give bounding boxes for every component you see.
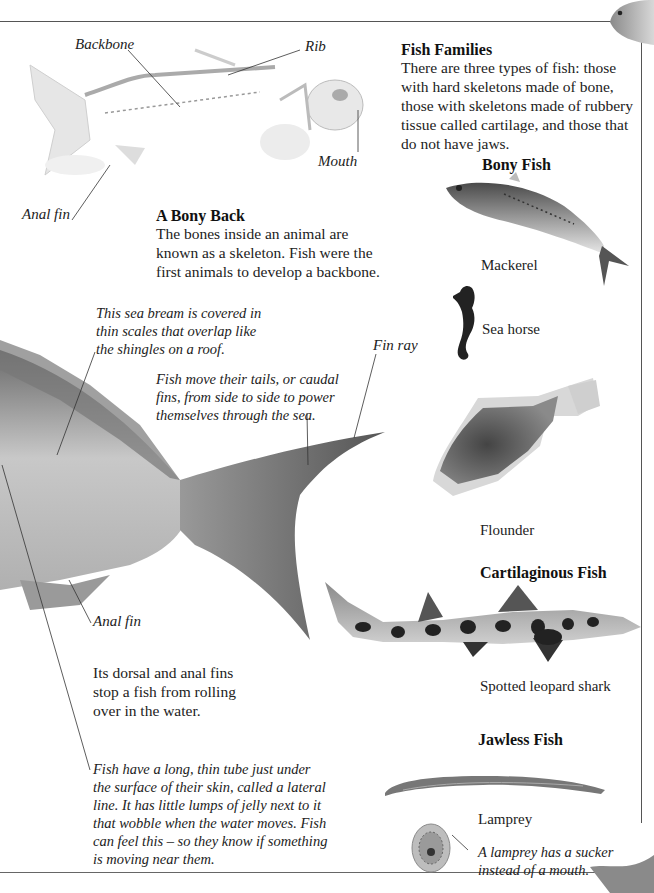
sea-horse-label: Sea horse: [482, 320, 540, 338]
bony-fish-heading: Bony Fish: [482, 155, 551, 174]
scales-caption: This sea bream is covered in thin scales…: [96, 304, 276, 358]
lamprey-label: Lamprey: [478, 810, 532, 828]
lateral-line-caption: Fish have a long, thin tube just under t…: [93, 760, 328, 868]
backbone-label: Backbone: [75, 36, 134, 53]
cartilaginous-fish-heading: Cartilaginous Fish: [480, 563, 607, 582]
fish-head-corner-image: [605, 0, 654, 50]
lamprey-sucker-image: [410, 822, 452, 877]
bony-back-body: The bones inside an animal are known as …: [156, 224, 386, 281]
bony-back-heading: A Bony Back: [156, 206, 245, 225]
mackerel-image: [444, 176, 634, 291]
tail-caption: Fish move their tails, or caudal fins, f…: [156, 370, 346, 424]
fish-families-body: There are three types of fish: those wit…: [401, 58, 633, 153]
fish-tail-corner-image: [590, 855, 654, 893]
dorsal-fins-text: Its dorsal and anal fins stop a fish fro…: [93, 663, 253, 720]
rib-label: Rib: [305, 38, 326, 55]
skeleton-anal-fin-label: Anal fin: [22, 206, 70, 223]
jawless-fish-heading: Jawless Fish: [478, 730, 563, 749]
lamprey-image: [383, 768, 608, 800]
top-rule: [0, 21, 630, 22]
fish-families-heading: Fish Families: [401, 40, 492, 59]
fish-skeleton-image: [15, 40, 365, 190]
lateral-line-leader-line: [0, 0, 1, 1]
fin-ray-label: Fin ray: [373, 337, 418, 354]
mouth-label: Mouth: [318, 153, 357, 170]
mackerel-label: Mackerel: [481, 256, 538, 274]
flounder-label: Flounder: [480, 521, 534, 539]
right-rule: [641, 23, 642, 823]
spotted-leopard-shark-label: Spotted leopard shark: [480, 677, 611, 695]
sea-horse-image: [450, 284, 480, 362]
flounder-image: [428, 376, 603, 496]
sea-bream-anal-fin-label: Anal fin: [93, 613, 141, 630]
